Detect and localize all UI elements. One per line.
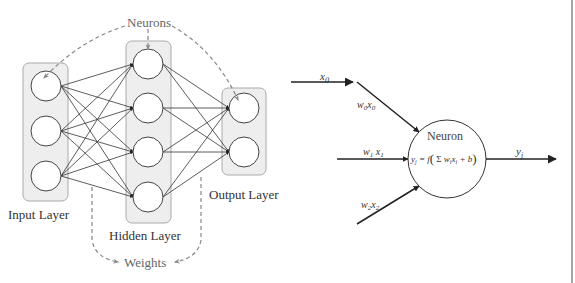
hidden-node bbox=[133, 49, 163, 79]
yj-label: yj bbox=[515, 145, 524, 160]
neuron-title: Neuron bbox=[427, 129, 463, 143]
neurons-label: Neurons bbox=[127, 15, 171, 30]
input-layer-label: Input Layer bbox=[8, 207, 70, 222]
diagram-canvas: Neurons Input Layer Hidden Layer Output … bbox=[0, 0, 575, 283]
weights-arrow-left bbox=[92, 187, 118, 262]
w0x0-label: w0x0 bbox=[357, 99, 376, 112]
output-node bbox=[229, 137, 259, 167]
hidden-node bbox=[133, 182, 163, 212]
weights-label: Weights bbox=[124, 255, 166, 270]
input-node bbox=[31, 161, 61, 191]
output-node bbox=[229, 93, 259, 123]
output-layer-label: Output Layer bbox=[209, 187, 279, 202]
hidden-node bbox=[133, 93, 163, 123]
neuron-diagram: x0 w0x0 w1 x1 w2x2 Neuron yj = f( Σ wixi… bbox=[291, 70, 556, 224]
neuron-formula: yj = f( Σ wixi + b) bbox=[410, 151, 477, 166]
w1x1-label: w1 x1 bbox=[363, 146, 384, 159]
hidden-layer-label: Hidden Layer bbox=[109, 228, 182, 243]
hidden-node bbox=[133, 137, 163, 167]
w2x2-label: w2x2 bbox=[361, 199, 380, 212]
input-node bbox=[31, 116, 61, 146]
weights-arrow-right bbox=[175, 177, 201, 262]
